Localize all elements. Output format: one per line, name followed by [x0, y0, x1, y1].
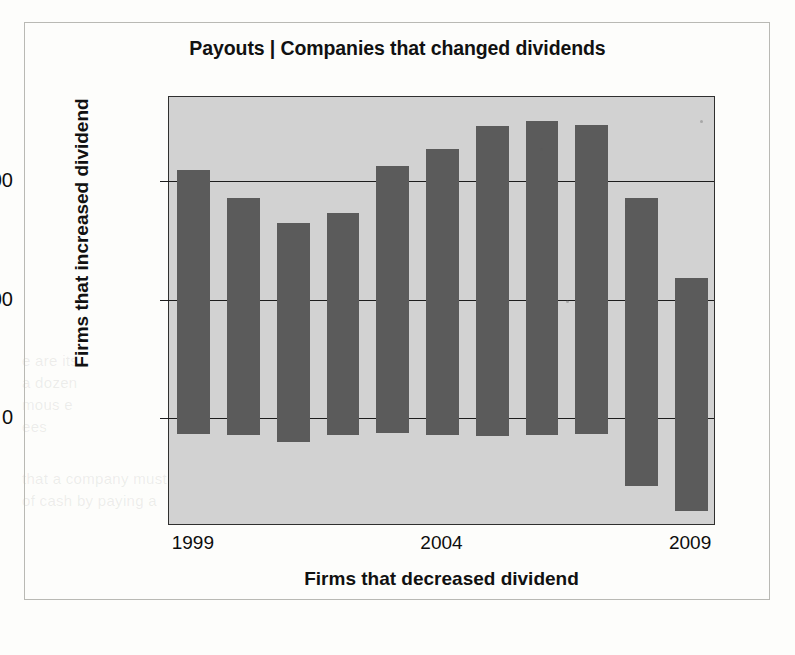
x-tick-label: 1999 [172, 532, 214, 554]
scan-speck [540, 148, 543, 151]
bar [227, 198, 260, 435]
y-axis-title: Firms that increased dividend [71, 68, 93, 398]
y-tick-label: 0 [2, 406, 13, 429]
bar [625, 198, 658, 486]
bar [526, 121, 559, 436]
bar [426, 149, 459, 435]
y-tick-mark [160, 181, 169, 182]
y-tick-label: 2,000 [0, 169, 13, 192]
bar [177, 170, 210, 434]
y-tick-mark [160, 418, 169, 419]
scan-speck [700, 120, 703, 123]
y-tick-label: 1,000 [0, 287, 13, 310]
y-tick-mark [160, 300, 169, 301]
bar [277, 223, 310, 443]
x-tick-label: 2004 [420, 532, 462, 554]
bar [675, 278, 708, 511]
bar [376, 166, 409, 433]
scan-speck [625, 205, 628, 208]
x-tick-label: 2009 [669, 532, 711, 554]
x-axis-title: Firms that decreased dividend [168, 568, 715, 590]
bar [327, 213, 360, 435]
scan-speck [566, 300, 569, 303]
plot-area [168, 96, 715, 525]
bar [476, 126, 509, 436]
bar [575, 125, 608, 433]
chart-title: Payouts | Companies that changed dividen… [0, 37, 795, 60]
